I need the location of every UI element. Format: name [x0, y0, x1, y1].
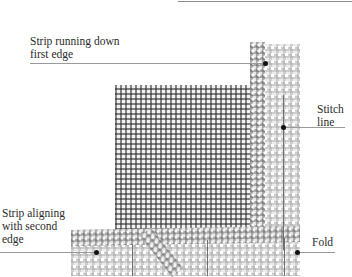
- leader-line-second-edge: [0, 252, 96, 253]
- label-fold: Fold: [312, 236, 333, 249]
- stitch-line-bottom-1: [132, 244, 133, 276]
- leader-line-first-edge: [30, 63, 265, 64]
- leader-line-fold: [297, 252, 335, 253]
- marker-dot-first-edge: [263, 61, 268, 66]
- horizontal-strip-outer: [71, 242, 300, 276]
- label-strip-second-edge: Strip aligning with second edge: [2, 207, 65, 246]
- stitch-line-vertical: [283, 95, 284, 250]
- marker-dot-stitch: [281, 125, 286, 130]
- fabric-square: [115, 85, 252, 230]
- top-rule: [178, 1, 352, 2]
- vertical-strip-inner: [250, 42, 265, 237]
- marker-dot-second-edge: [94, 250, 99, 255]
- marker-dot-fold: [295, 250, 300, 255]
- stitch-line-bottom-2: [207, 240, 208, 276]
- leader-line-stitch: [283, 127, 345, 128]
- label-stitch-line: Stitch line: [317, 103, 344, 129]
- label-strip-first-edge: Strip running down first edge: [30, 35, 119, 61]
- stitch-line-bottom-3: [284, 238, 285, 276]
